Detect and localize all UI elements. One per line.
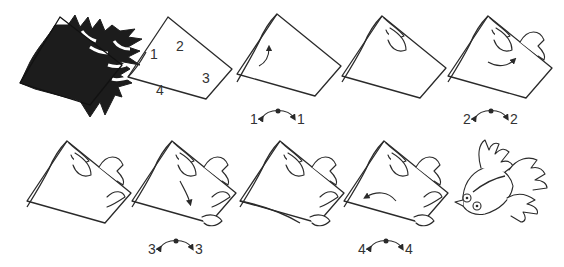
svg-text:2: 2: [463, 111, 471, 127]
swap-indicator-3: 3 3: [148, 239, 203, 258]
swap-indicator-1: 1 1: [250, 109, 305, 128]
folding-diagram: 1 2 3 4 1 1 2 2: [0, 0, 564, 267]
swap-indicator-2: 2 2: [463, 109, 518, 128]
svg-text:2: 2: [510, 111, 518, 127]
step-5-fold-edge-2: [448, 16, 552, 98]
svg-text:1: 1: [297, 111, 305, 127]
step-7-fold-edge-3: [132, 141, 236, 226]
svg-text:4: 4: [405, 241, 413, 257]
svg-text:3: 3: [148, 241, 156, 257]
step-6-edge-2-fins: [27, 141, 131, 223]
swap-indicator-4: 4 4: [358, 239, 413, 258]
edge-label-1: 1: [150, 46, 158, 62]
svg-text:4: 4: [358, 241, 366, 257]
svg-text:3: 3: [195, 241, 203, 257]
edge-label-2: 2: [176, 38, 184, 54]
edge-label-4: 4: [156, 82, 164, 98]
step-8-edge-3-fins: [240, 141, 344, 226]
step-1-template-shape: [20, 15, 142, 117]
step-2-numbered-square: 1 2 3 4: [128, 17, 232, 99]
edge-label-3: 3: [202, 70, 210, 86]
svg-text:1: 1: [250, 111, 258, 127]
step-9-fold-edge-4: [344, 141, 448, 226]
step-10-finished-fish: [455, 140, 547, 222]
step-3-fold-edge-1: [237, 14, 341, 96]
step-4-edge-1-fins: [342, 16, 446, 98]
